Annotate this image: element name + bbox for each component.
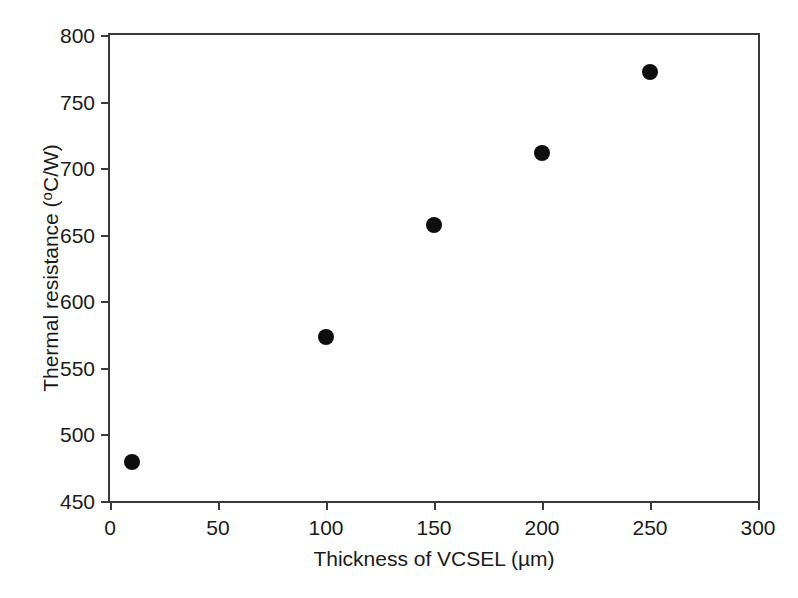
y-axis-title-text: Thermal resistance (	[39, 200, 62, 391]
x-axis-tick-label: 300	[740, 517, 775, 538]
y-axis-tick-label: 450	[60, 491, 95, 512]
data-point	[426, 217, 442, 233]
y-axis-tick-label: 550	[60, 357, 95, 378]
y-axis-tick	[101, 434, 110, 436]
x-axis-tick-label: 200	[524, 517, 559, 538]
y-axis-tick-label: 800	[60, 25, 95, 46]
y-axis-tick-label: 600	[60, 291, 95, 312]
y-axis-tick-label: 500	[60, 424, 95, 445]
x-axis-tick-label: 250	[632, 517, 667, 538]
y-axis-tick	[101, 102, 110, 104]
x-axis-tick	[758, 501, 760, 510]
y-axis-tick	[101, 168, 110, 170]
x-axis-tick-label: 50	[206, 517, 229, 538]
x-axis-tick-label: 0	[104, 517, 116, 538]
data-point	[534, 145, 550, 161]
y-axis-tick	[101, 35, 110, 37]
y-axis-tick	[101, 235, 110, 237]
plot-frame: 4505005506006507007508000501001502002503…	[108, 33, 760, 503]
y-axis-tick	[101, 301, 110, 303]
x-axis-tick	[542, 501, 544, 510]
data-point	[124, 454, 140, 470]
plot-area	[110, 35, 758, 501]
x-axis-tick-label: 100	[308, 517, 343, 538]
x-axis-tick	[434, 501, 436, 510]
y-axis-tick-label: 750	[60, 91, 95, 112]
y-axis-tick	[101, 501, 110, 503]
x-axis-tick-label: 150	[416, 517, 451, 538]
x-axis-tick	[218, 501, 220, 510]
data-point	[642, 64, 658, 80]
y-axis-title: Thermal resistance (oC/W)	[30, 33, 64, 503]
data-point	[318, 329, 334, 345]
y-axis-tick-label: 700	[60, 158, 95, 179]
y-axis-tick	[101, 368, 110, 370]
degree-symbol: o	[38, 192, 55, 200]
x-axis-title: Thickness of VCSEL (µm)	[108, 548, 760, 569]
figure: 4505005506006507007508000501001502002503…	[0, 0, 798, 598]
x-axis-tick	[650, 501, 652, 510]
x-axis-tick	[326, 501, 328, 510]
y-axis-tick-label: 650	[60, 224, 95, 245]
y-axis-title-tail: C/W)	[39, 144, 62, 192]
x-axis-tick	[110, 501, 112, 510]
